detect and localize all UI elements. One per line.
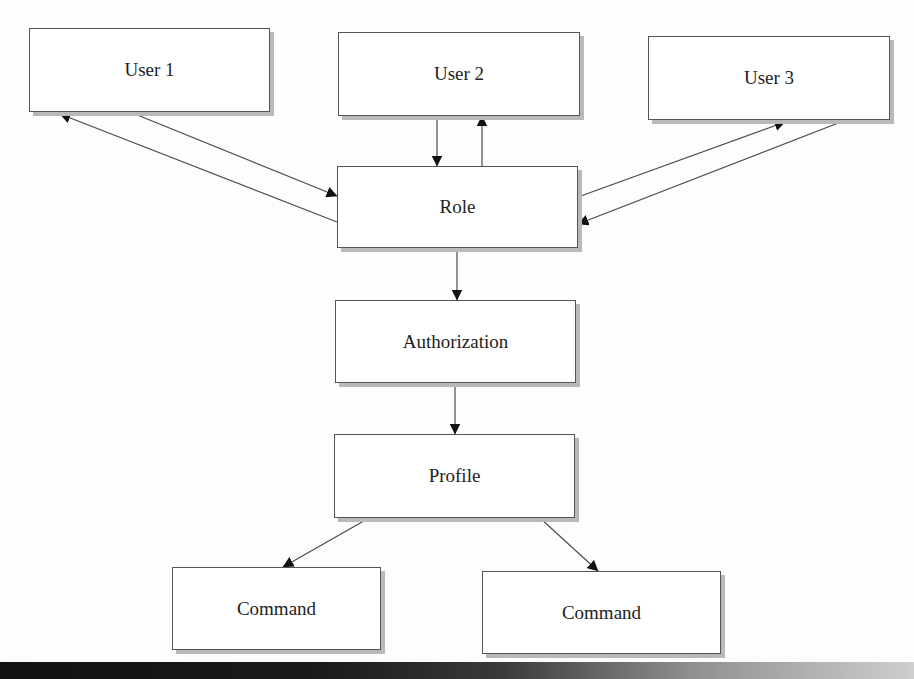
node-role: Role — [337, 166, 578, 248]
node-label: Command — [237, 598, 316, 620]
arrow-role-to-user3 — [578, 122, 785, 197]
arrow-profile-to-command-left — [283, 518, 369, 567]
diagram-canvas: User 1 User 2 User 3 Role Authorization … — [0, 0, 914, 679]
node-label: Role — [440, 196, 476, 218]
node-user-3: User 3 — [648, 36, 890, 120]
arrow-user3-to-role — [578, 120, 846, 224]
node-authorization: Authorization — [335, 300, 576, 383]
node-label: User 3 — [744, 67, 794, 89]
arrow-role-to-user1 — [60, 114, 337, 222]
page-bottom-edge — [0, 662, 914, 679]
node-profile: Profile — [334, 434, 575, 518]
node-command-left: Command — [172, 567, 381, 650]
node-label: User 2 — [434, 63, 484, 85]
node-label: Command — [562, 602, 641, 624]
arrow-profile-to-command-right — [540, 518, 598, 571]
node-user-2: User 2 — [338, 32, 580, 116]
node-label: Profile — [429, 465, 481, 487]
node-command-right: Command — [482, 571, 721, 654]
node-label: Authorization — [403, 331, 509, 353]
node-label: User 1 — [124, 59, 174, 81]
node-user-1: User 1 — [29, 28, 270, 112]
